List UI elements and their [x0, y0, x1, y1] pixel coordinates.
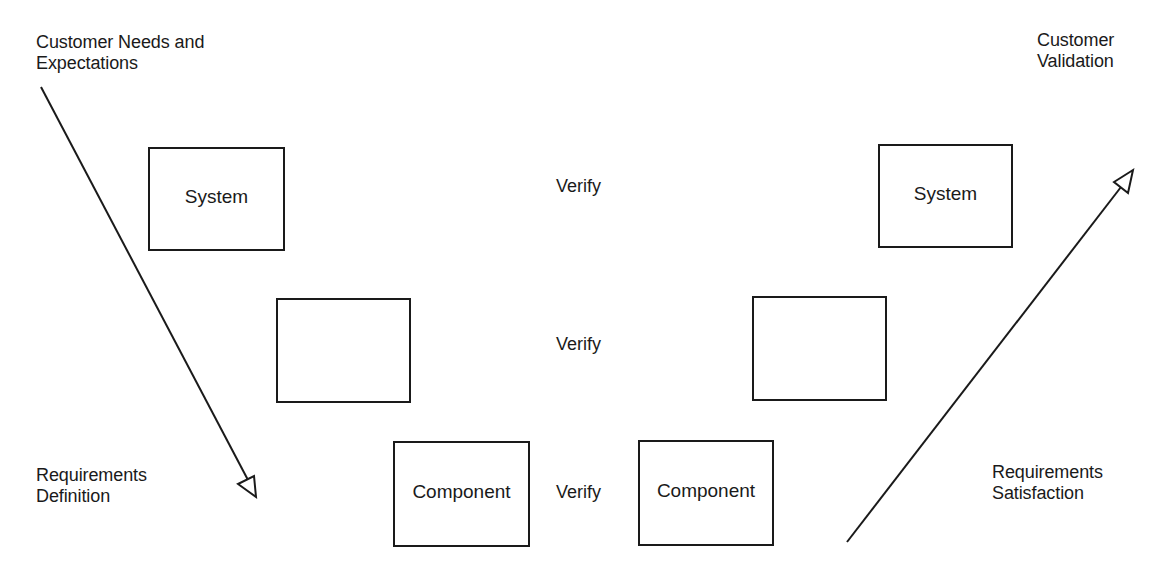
right-component-box-label: Component	[657, 480, 755, 502]
customer-validation-label: Customer Validation	[1037, 30, 1114, 72]
customer-needs-line-1: Customer Needs and	[36, 32, 204, 53]
left-subsystem-box	[276, 298, 411, 403]
left-component-box-label: Component	[412, 481, 510, 503]
left-system-box-label: System	[185, 186, 248, 208]
left-system-box: System	[148, 147, 285, 251]
requirements-satisfaction-line-2: Satisfaction	[992, 483, 1103, 504]
v-model-diagram: Customer Needs and Expectations Requirem…	[0, 0, 1166, 562]
verify-component-label: Verify	[556, 482, 601, 503]
customer-validation-line-1: Customer	[1037, 30, 1114, 51]
right-component-box: Component	[638, 440, 774, 546]
requirements-satisfaction-label: Requirements Satisfaction	[992, 462, 1103, 504]
customer-needs-line-2: Expectations	[36, 53, 204, 74]
requirements-definition-label: Requirements Definition	[36, 465, 147, 507]
requirements-satisfaction-line-1: Requirements	[992, 462, 1103, 483]
requirements-definition-line-1: Requirements	[36, 465, 147, 486]
right-system-box-label: System	[914, 183, 977, 205]
right-subsystem-box	[752, 296, 887, 401]
verify-system-label: Verify	[556, 176, 601, 197]
requirements-definition-line-2: Definition	[36, 486, 147, 507]
customer-validation-line-2: Validation	[1037, 51, 1114, 72]
verify-subsystem-label: Verify	[556, 334, 601, 355]
right-system-box: System	[878, 144, 1013, 248]
left-component-box: Component	[393, 441, 530, 547]
customer-needs-label: Customer Needs and Expectations	[36, 32, 204, 74]
